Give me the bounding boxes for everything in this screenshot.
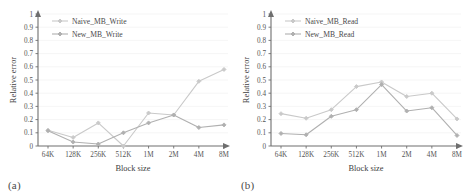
figure-container: 00.10.20.30.40.50.60.70.80.9164K128K256K… — [0, 0, 466, 195]
data-point-marker — [96, 142, 100, 146]
y-tick-label: 0.6 — [257, 63, 266, 71]
y-tick-label: 0.8 — [257, 37, 266, 45]
data-point-marker — [222, 67, 226, 71]
x-tick-label: 64K — [42, 151, 55, 159]
y-tick-label: 0.4 — [24, 90, 33, 98]
y-tick-label: 0.7 — [257, 50, 266, 58]
legend-label: Naive_MB_Read — [305, 17, 358, 26]
y-tick-label: 0.1 — [257, 129, 266, 137]
legend-marker — [58, 19, 62, 23]
y-tick-label: 0.8 — [24, 37, 33, 45]
x-tick-label: 128K — [298, 151, 315, 159]
chart-a-canvas: 00.10.20.30.40.50.60.70.80.9164K128K256K… — [0, 0, 233, 172]
y-axis-arrow — [268, 10, 274, 17]
data-point-marker — [147, 121, 151, 125]
y-tick-label: 0 — [262, 143, 266, 151]
data-point-marker — [222, 123, 226, 127]
y-axis-title: Relative error — [9, 57, 18, 103]
y-tick-label: 0.4 — [257, 90, 266, 98]
x-axis-title: Block size — [348, 164, 383, 172]
legend-marker — [291, 19, 295, 23]
x-axis-title: Block size — [115, 164, 150, 172]
x-tick-label: 1M — [144, 151, 155, 159]
data-point-marker — [121, 131, 125, 135]
y-tick-label: 0.9 — [257, 24, 266, 32]
data-point-marker — [279, 112, 283, 116]
x-tick-label: 512K — [348, 151, 365, 159]
y-axis-arrow — [35, 10, 41, 17]
y-tick-label: 1 — [29, 11, 33, 19]
x-tick-label: 8M — [452, 151, 463, 159]
legend-label: Naive_MB_Write — [72, 17, 127, 26]
y-tick-label: 0.5 — [24, 77, 33, 85]
x-tick-label: 512K — [115, 151, 132, 159]
x-tick-label: 2M — [402, 151, 413, 159]
x-tick-label: 4M — [427, 151, 438, 159]
y-tick-label: 0.5 — [257, 77, 266, 85]
y-axis-title: Relative error — [242, 57, 251, 103]
legend-label: New_MB_Read — [305, 30, 355, 39]
y-tick-label: 0.9 — [24, 24, 33, 32]
series-line — [281, 82, 457, 119]
legend-marker — [58, 32, 62, 36]
y-tick-label: 0.2 — [24, 116, 33, 124]
x-tick-label: 2M — [169, 151, 180, 159]
legend-marker — [291, 32, 295, 36]
y-tick-label: 0.2 — [257, 116, 266, 124]
x-tick-label: 256K — [90, 151, 107, 159]
data-point-marker — [279, 131, 283, 135]
y-tick-label: 0 — [29, 143, 33, 151]
x-tick-label: 1M — [377, 151, 388, 159]
subplot-label-a: (a) — [8, 179, 21, 191]
subplot-label-b: (b) — [241, 179, 254, 191]
x-tick-label: 256K — [323, 151, 340, 159]
y-tick-label: 0.7 — [24, 50, 33, 58]
y-tick-label: 0.1 — [24, 129, 33, 137]
y-tick-label: 0.3 — [257, 103, 266, 111]
x-tick-label: 8M — [219, 151, 230, 159]
data-point-marker — [197, 126, 201, 130]
chart-b-canvas: 00.10.20.30.40.50.60.70.80.9164K128K256K… — [233, 0, 466, 172]
data-point-marker — [71, 140, 75, 144]
y-tick-label: 1 — [262, 11, 266, 19]
y-tick-label: 0.6 — [24, 63, 33, 71]
x-tick-label: 128K — [65, 151, 82, 159]
chart-panel-b: 00.10.20.30.40.50.60.70.80.9164K128K256K… — [233, 0, 466, 195]
y-tick-label: 0.3 — [24, 103, 33, 111]
x-tick-label: 64K — [275, 151, 288, 159]
x-tick-label: 4M — [194, 151, 205, 159]
chart-panel-a: 00.10.20.30.40.50.60.70.80.9164K128K256K… — [0, 0, 233, 195]
legend-label: New_MB_Write — [72, 30, 123, 39]
